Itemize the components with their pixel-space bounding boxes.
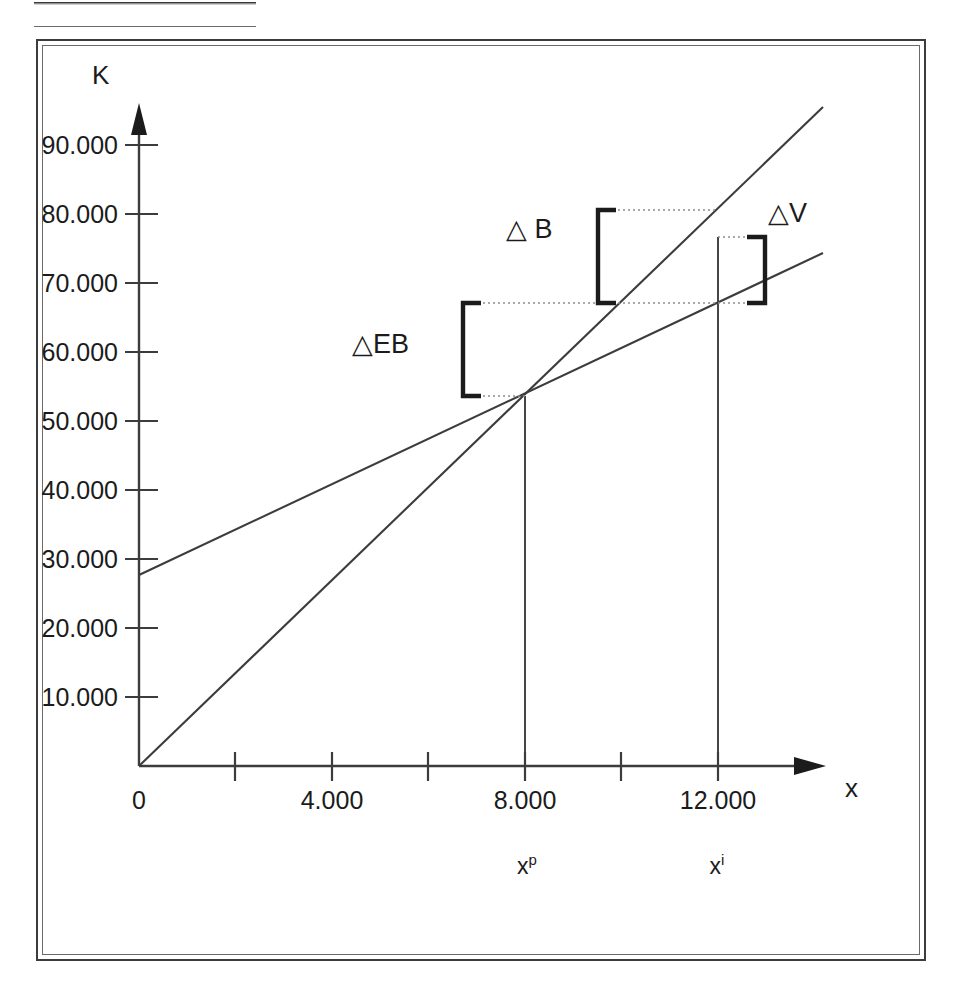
y-axis-ticks (125, 145, 158, 697)
bracket-delta-v (747, 237, 765, 303)
x-tick-label-8000: 8.000 (494, 788, 557, 813)
x-planned-marker-label: xp (517, 852, 537, 878)
bracket-delta-b (598, 210, 616, 303)
y-tick-label-80000: 80.000 (0, 202, 118, 227)
bracket-delta-eb (463, 303, 481, 396)
y-axis-title: K (92, 62, 109, 88)
x-actual-base: x (710, 853, 722, 879)
y-tick-label-90000: 90.000 (0, 133, 118, 158)
x-planned-superscript: p (529, 851, 537, 868)
y-tick-label-40000: 40.000 (0, 478, 118, 503)
y-tick-label-20000: 20.000 (0, 616, 118, 641)
x-actual-marker-label: xi (710, 852, 725, 878)
x-tick-label-0: 0 (132, 788, 146, 813)
x-planned-base: x (517, 853, 529, 879)
annotation-delta-b: △ B (506, 216, 553, 243)
x-axis-arrowhead (794, 757, 826, 775)
y-tick-label-10000: 10.000 (0, 685, 118, 710)
x-tick-label-12000: 12.000 (680, 788, 756, 813)
y-tick-label-70000: 70.000 (0, 271, 118, 296)
annotation-delta-eb: △EB (352, 331, 409, 358)
series-proportional-cost-line (139, 107, 823, 766)
y-tick-label-60000: 60.000 (0, 340, 118, 365)
annotation-delta-v: △V (768, 200, 807, 227)
x-actual-superscript: i (721, 851, 724, 868)
y-tick-label-50000: 50.000 (0, 409, 118, 434)
x-tick-label-4000: 4.000 (301, 788, 364, 813)
y-tick-label-30000: 30.000 (0, 547, 118, 572)
x-axis-title: x (845, 775, 858, 801)
y-axis-arrowhead (131, 103, 147, 135)
cost-chart-plot (0, 0, 954, 990)
